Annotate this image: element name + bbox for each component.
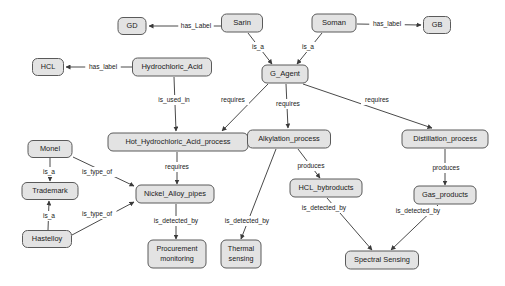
edge-labels-layer: has_Labelhas_labelis_ais_ahas_labelis_us…: [40, 19, 462, 226]
node-hastelloy[interactable]: Hastelloy: [23, 231, 72, 248]
edge-label-e6: is_used_in: [158, 96, 190, 104]
node-nickel[interactable]: Nickel_Alloy_pipes: [136, 185, 214, 203]
node-thermal[interactable]: Thermalsensing: [221, 240, 261, 268]
node-label-monel: Monel: [40, 144, 60, 153]
node-label-hcl: HCL: [41, 62, 55, 71]
node-hydrochloric[interactable]: Hydrochloric_Acid: [133, 58, 212, 76]
node-label-trademark: Trademark: [32, 186, 68, 195]
edge-label-e4: is_a: [302, 43, 314, 51]
edge-label-e20: is_detected_by: [396, 207, 441, 215]
edge-label-e16: is_detected_by: [225, 217, 270, 225]
node-label-procurement: Procurementmonitoring: [156, 244, 197, 262]
knowledge-graph-diagram: has_Labelhas_labelis_ais_ahas_labelis_us…: [0, 0, 505, 286]
node-alkylation[interactable]: Alkylation_process: [248, 130, 331, 148]
edge-label-e18: is_detected_by: [302, 204, 347, 212]
node-sarin[interactable]: Sarin: [222, 14, 263, 32]
nodes-layer: GDSarinSomanGBHCLHydrochloric_AcidG_Agen…: [22, 14, 488, 269]
node-hcl[interactable]: HCL: [33, 59, 64, 76]
graph-canvas: has_Labelhas_labelis_ais_ahas_labelis_us…: [0, 0, 505, 286]
node-gasprod[interactable]: Gas_products: [414, 186, 476, 204]
edge-label-e3: is_a: [252, 43, 264, 51]
node-gb[interactable]: GB: [424, 17, 451, 34]
edge-label-e7: requires: [221, 96, 246, 104]
edge-label-e17: produces: [297, 162, 325, 170]
node-trademark[interactable]: Trademark: [22, 183, 78, 200]
node-label-nickel: Nickel_Alloy_pipes: [144, 189, 206, 198]
node-label-hydrochloric: Hydrochloric_Acid: [141, 62, 202, 71]
node-label-spectral: Spectral Sensing: [354, 255, 410, 264]
node-label-distillation: Distillation_process: [413, 134, 477, 143]
edge-label-e12: is_type_of: [82, 168, 112, 176]
node-procurement[interactable]: Procurementmonitoring: [148, 240, 206, 268]
edge-label-e5: has_label: [89, 63, 118, 71]
node-label-gasprod: Gas_products: [422, 190, 468, 199]
node-label-hastelloy: Hastelloy: [32, 234, 63, 243]
node-label-alkylation: Alkylation_process: [258, 134, 320, 143]
edge-label-e9: requires: [365, 96, 390, 104]
node-spectral[interactable]: Spectral Sensing: [346, 251, 419, 269]
node-gd[interactable]: GD: [118, 18, 146, 35]
edge-label-e1: has_Label: [181, 22, 212, 30]
edge-label-e10: is_a: [43, 168, 55, 176]
edge-label-e19: produces: [432, 164, 460, 172]
node-label-hclby: HCL_bybroducts: [298, 183, 353, 192]
edge-label-e11: is_a: [43, 212, 55, 220]
node-monel[interactable]: Monel: [28, 141, 72, 158]
edge-gagent-to-hotprocess: [222, 84, 268, 131]
node-label-sarin: Sarin: [233, 18, 251, 27]
node-label-thermal: Thermalsensing: [228, 244, 255, 262]
edge-gagent-to-distillation: [303, 84, 432, 128]
node-soman[interactable]: Soman: [312, 14, 356, 32]
node-distillation[interactable]: Distillation_process: [402, 130, 488, 148]
node-label-soman: Soman: [322, 18, 346, 27]
node-gagent[interactable]: G_Agent: [262, 65, 308, 83]
edge-label-e15: is_detected_by: [154, 217, 199, 225]
node-label-gb: GB: [432, 20, 443, 29]
node-hotprocess[interactable]: Hot_Hydrochloric_Acid_process: [108, 133, 248, 151]
edge-label-e13: is_type_of: [82, 210, 112, 218]
edge-label-e2: has_label: [373, 20, 402, 28]
node-label-hotprocess: Hot_Hydrochloric_Acid_process: [125, 137, 230, 146]
node-label-gd: GD: [126, 21, 137, 30]
edge-label-e8: requires: [276, 100, 301, 108]
node-label-gagent: G_Agent: [270, 69, 301, 78]
node-hclby[interactable]: HCL_bybroducts: [290, 179, 362, 197]
edge-label-e14: requires: [165, 163, 190, 171]
